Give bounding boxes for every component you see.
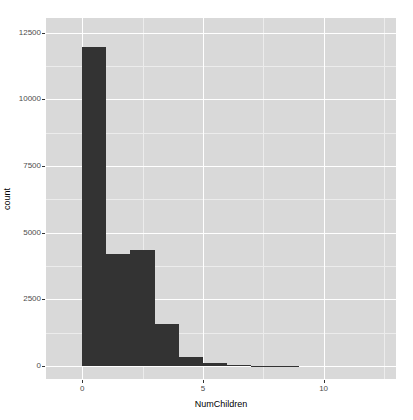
histogram-bar	[227, 365, 251, 366]
gridline-major-vertical	[203, 18, 204, 379]
y-axis-ticklabels: 02500500075001000012500	[14, 0, 41, 420]
y-axis-tickmark	[42, 233, 45, 234]
histogram-bar	[106, 254, 130, 366]
histogram-bar	[155, 324, 179, 367]
gridline-minor-vertical	[384, 18, 385, 379]
histogram-bar	[179, 357, 203, 366]
y-axis-tickmark	[42, 366, 45, 367]
y-axis-tickmark	[42, 99, 45, 100]
y-axis-tickmark	[42, 166, 45, 167]
x-axis-title-text: NumChildren	[195, 399, 248, 409]
y-axis-ticklabel: 2500	[14, 295, 41, 303]
histogram-chart: count 02500500075001000012500 0510 NumCh…	[0, 0, 413, 420]
y-axis-ticklabel: 7500	[14, 162, 41, 170]
y-axis-title-text: count	[2, 187, 12, 209]
y-axis-ticklabel: 10000	[14, 95, 41, 103]
histogram-bar	[130, 250, 154, 366]
histogram-bar	[251, 366, 275, 367]
gridline-major-horizontal	[46, 33, 396, 34]
x-axis-title: NumChildren	[46, 399, 396, 409]
y-axis-tickmark	[42, 299, 45, 300]
gridline-major-vertical	[324, 18, 325, 379]
histogram-bar	[275, 366, 299, 367]
histogram-bar	[82, 47, 106, 366]
y-axis-ticklabel: 0	[14, 362, 41, 370]
x-axis-tickmark	[203, 380, 204, 383]
x-axis-tickmark	[82, 380, 83, 383]
gridline-minor-vertical	[263, 18, 264, 379]
y-axis-ticklabel: 5000	[14, 229, 41, 237]
y-axis-title: count	[0, 0, 14, 397]
x-axis-ticklabel: 0	[69, 385, 95, 393]
histogram-bar	[203, 363, 227, 366]
plot-panel	[46, 18, 396, 379]
x-axis-ticklabel: 5	[190, 385, 216, 393]
y-axis-ticklabel: 12500	[14, 29, 41, 37]
x-axis-tickmark	[324, 380, 325, 383]
x-axis-ticklabel: 10	[311, 385, 337, 393]
y-axis-tickmark	[42, 33, 45, 34]
